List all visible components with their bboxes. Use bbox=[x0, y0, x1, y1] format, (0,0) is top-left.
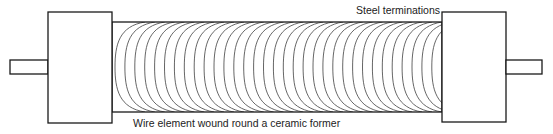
right-terminal-shaft bbox=[506, 60, 542, 74]
resistor-diagram bbox=[0, 0, 553, 134]
wire-coil bbox=[115, 22, 462, 112]
wire-turn bbox=[402, 22, 432, 112]
wire-turn bbox=[363, 22, 393, 112]
wire-turn bbox=[382, 22, 412, 112]
wire-turn bbox=[264, 22, 294, 112]
wire-turn bbox=[244, 22, 274, 112]
wire-turn bbox=[115, 22, 145, 112]
wire-turn bbox=[313, 22, 343, 112]
wire-turn bbox=[125, 22, 155, 112]
wire-turn bbox=[194, 22, 224, 112]
wire-turn bbox=[254, 22, 284, 112]
wire-turn bbox=[204, 22, 234, 112]
wire-turn bbox=[372, 22, 402, 112]
right-steel-termination bbox=[442, 12, 506, 122]
wire-turn bbox=[165, 22, 195, 112]
wire-turn bbox=[412, 22, 442, 112]
left-terminal-shaft bbox=[10, 60, 48, 74]
wire-turn bbox=[214, 22, 244, 112]
wire-turn bbox=[273, 22, 303, 112]
steel-terminations-label: Steel terminations bbox=[356, 5, 440, 16]
wire-turn bbox=[353, 22, 383, 112]
wire-turn bbox=[293, 22, 323, 112]
wire-turn bbox=[224, 22, 254, 112]
left-steel-termination bbox=[48, 12, 112, 123]
wire-turn bbox=[234, 22, 264, 112]
wire-turn bbox=[184, 22, 214, 112]
wire-turn bbox=[392, 22, 422, 112]
wire-turn bbox=[155, 22, 185, 112]
wire-turn bbox=[174, 22, 204, 112]
wire-turn bbox=[145, 22, 175, 112]
wire-turn bbox=[283, 22, 313, 112]
wire-turn bbox=[323, 22, 353, 112]
wire-element-label: Wire element wound round a ceramic forme… bbox=[133, 118, 340, 129]
wire-turn bbox=[135, 22, 165, 112]
wire-turn bbox=[333, 22, 363, 112]
wire-turn bbox=[303, 22, 333, 112]
wire-turn bbox=[343, 22, 373, 112]
